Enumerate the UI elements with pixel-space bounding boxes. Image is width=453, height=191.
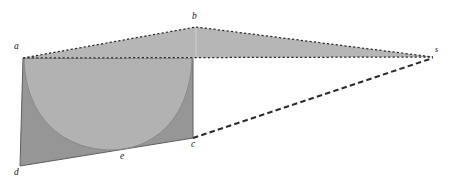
geometry-canvas [0,0,453,191]
geometry-figure: a b c d e s [0,0,453,191]
vertex-label-e: e [120,152,124,162]
edge-c-s [193,58,433,138]
vertex-label-b: b [192,12,197,22]
vertex-label-a: a [14,42,19,52]
vertex-label-d: d [14,168,19,178]
vertex-label-c: c [191,140,195,150]
vertex-label-s: s [435,46,438,54]
